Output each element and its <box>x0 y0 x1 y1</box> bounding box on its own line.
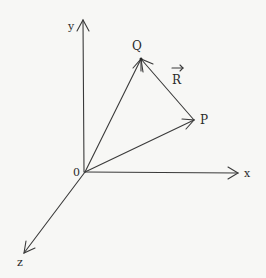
y-axis <box>83 20 84 172</box>
point-q-dot <box>140 58 143 61</box>
vector-diagram: y x z 0 Q P R <box>0 0 266 278</box>
z-axis <box>24 172 85 253</box>
diagram-svg: y x z 0 Q P R <box>0 0 266 278</box>
x-axis <box>85 172 238 173</box>
origin-label: 0 <box>73 166 80 179</box>
vector-oq-arrowhead-icon <box>133 59 141 71</box>
vector-op <box>85 120 194 172</box>
point-p-label: P <box>200 113 208 127</box>
x-axis-label: x <box>244 167 251 180</box>
vector-r-label: R <box>172 73 182 87</box>
y-axis-label: y <box>67 20 75 33</box>
point-q-label: Q <box>132 39 142 53</box>
vector-oq <box>85 59 141 172</box>
z-axis-label: z <box>17 256 23 269</box>
vector-pq <box>141 59 194 120</box>
